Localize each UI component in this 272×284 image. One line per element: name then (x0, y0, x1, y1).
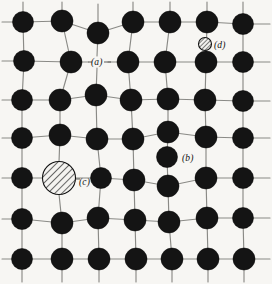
host-atom (51, 212, 73, 234)
host-atom (195, 167, 217, 189)
lattice-defect-figure: (a) (b) (c) (d) (0, 0, 272, 284)
host-atom (196, 11, 218, 33)
host-atom (12, 249, 33, 270)
lattice-diagram: (a) (b) (c) (d) (0, 0, 272, 284)
defect-label-b: (b) (182, 153, 194, 164)
host-atom (125, 248, 147, 270)
host-atom (233, 128, 254, 149)
interstitial-atom-b (157, 147, 178, 168)
host-atom (195, 126, 217, 148)
host-atom (233, 248, 255, 270)
host-atom (124, 209, 146, 231)
host-atom (194, 89, 216, 111)
host-atom (154, 51, 176, 73)
host-atom (60, 51, 82, 73)
host-atom (49, 124, 71, 146)
host-atom (157, 175, 179, 197)
host-atom (233, 52, 254, 73)
substitutional-impurity-c (43, 162, 76, 195)
host-atom (157, 88, 179, 110)
host-atom (12, 90, 33, 111)
host-atom (51, 10, 73, 32)
defect-label-d: (d) (214, 40, 226, 51)
host-atom (159, 11, 181, 33)
host-atom (197, 248, 219, 270)
host-atom (12, 209, 33, 230)
host-atom (196, 207, 218, 229)
host-atom (122, 11, 144, 33)
host-atom (87, 207, 109, 229)
host-atom (13, 12, 34, 33)
host-atom (123, 169, 145, 191)
host-atom (233, 14, 254, 35)
host-atom (86, 128, 108, 150)
host-atom (12, 128, 33, 149)
host-atom (91, 168, 112, 189)
host-atom (157, 121, 179, 143)
host-atom (51, 248, 73, 270)
host-atom (122, 128, 144, 150)
defect-label-c: (c) (79, 177, 90, 188)
host-atom (88, 248, 110, 270)
host-atom (85, 84, 107, 106)
host-atom (14, 51, 35, 72)
host-atom (120, 89, 142, 111)
host-atom (49, 89, 71, 111)
host-atom (233, 208, 254, 229)
host-atom (161, 248, 183, 270)
host-atom (233, 168, 254, 189)
host-atom (12, 168, 33, 189)
interstitial-impurity-d (199, 38, 212, 51)
defect-label-a: (a) (91, 57, 103, 68)
host-atom (117, 51, 139, 73)
host-atom (158, 211, 180, 233)
host-atom (195, 51, 217, 73)
host-atom (233, 91, 254, 112)
host-atom (87, 22, 109, 44)
